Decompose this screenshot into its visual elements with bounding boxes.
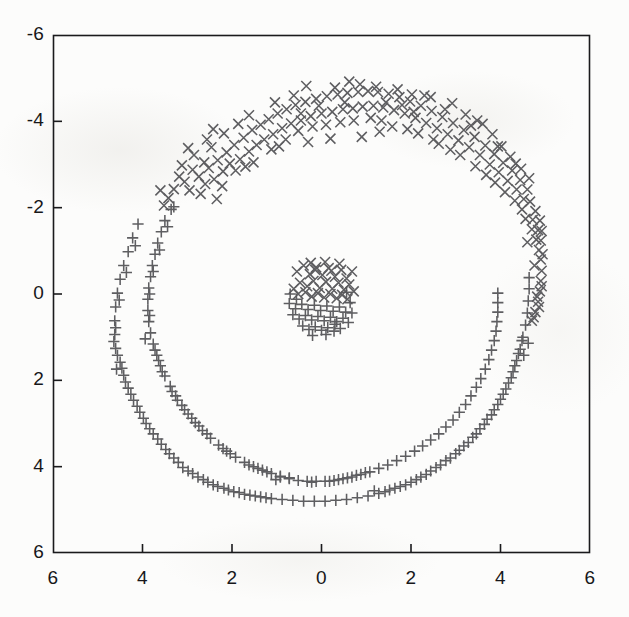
y-axis-tick-label: -2 xyxy=(27,196,44,218)
data-point-plus xyxy=(118,260,129,271)
data-point-cross xyxy=(384,89,394,99)
data-point-cross xyxy=(301,81,311,91)
data-point-plus xyxy=(454,407,465,418)
data-point-cross xyxy=(289,90,299,100)
data-point-cross xyxy=(204,163,214,173)
data-point-cross xyxy=(247,125,257,135)
data-point-plus xyxy=(507,366,518,377)
data-point-plus xyxy=(152,237,163,248)
data-point-plus xyxy=(112,288,123,299)
data-point-plus xyxy=(144,288,155,299)
data-point-cross xyxy=(183,143,193,153)
data-point-plus xyxy=(298,496,309,507)
data-point-plus xyxy=(440,421,451,432)
data-point-cross xyxy=(522,237,532,247)
data-point-cross xyxy=(461,109,471,119)
data-point-cross xyxy=(358,102,368,112)
data-point-cross xyxy=(421,118,431,128)
data-point-cross xyxy=(515,175,525,185)
data-point-cross xyxy=(306,111,316,121)
x-axis-tick-label: 6 xyxy=(570,567,610,589)
data-point-plus xyxy=(389,483,400,494)
data-point-cross xyxy=(505,152,515,162)
data-point-cross xyxy=(445,145,455,155)
y-axis-tick-label: 2 xyxy=(33,368,44,390)
data-point-cross xyxy=(184,185,194,195)
data-point-cross xyxy=(303,137,313,147)
data-point-plus xyxy=(118,370,129,381)
data-point-cross xyxy=(199,157,209,167)
data-point-cross xyxy=(524,173,534,183)
data-point-cross xyxy=(348,103,358,113)
data-point-cross xyxy=(342,88,352,98)
data-point-cross xyxy=(174,172,184,182)
data-point-plus xyxy=(143,316,154,327)
data-point-cross xyxy=(321,120,331,130)
data-point-plus xyxy=(143,282,154,293)
data-point-cross xyxy=(448,118,458,128)
x-axis-tick-label: 2 xyxy=(212,567,252,589)
data-point-cross xyxy=(340,97,350,107)
data-point-plus xyxy=(239,489,250,500)
data-point-cross xyxy=(537,266,547,276)
data-point-plus xyxy=(121,267,132,278)
data-point-cross xyxy=(282,104,292,114)
data-point-cross xyxy=(256,120,266,130)
data-point-cross xyxy=(375,127,385,137)
data-point-plus xyxy=(524,272,535,283)
scatter-plot-figure: 6420-2-4-66420246 xyxy=(0,0,629,617)
series-class-x xyxy=(155,77,547,326)
data-point-plus xyxy=(266,493,277,504)
data-point-cross xyxy=(402,124,412,134)
data-point-cross xyxy=(155,185,165,195)
data-point-plus xyxy=(395,481,406,492)
data-point-plus xyxy=(362,490,373,501)
data-point-cross xyxy=(317,109,327,119)
data-point-plus xyxy=(495,394,506,405)
data-point-cross xyxy=(530,206,540,216)
data-point-plus xyxy=(498,389,509,400)
data-point-cross xyxy=(490,178,500,188)
x-axis-tick-label: 4 xyxy=(481,567,521,589)
data-point-cross xyxy=(273,109,283,119)
data-point-plus xyxy=(142,294,153,305)
data-point-cross xyxy=(443,129,453,139)
data-point-cross xyxy=(470,132,480,142)
data-point-cross xyxy=(177,160,187,170)
data-point-cross xyxy=(244,110,254,120)
data-point-plus xyxy=(277,494,288,505)
data-point-plus xyxy=(162,221,173,232)
data-point-plus xyxy=(151,350,162,361)
data-point-cross xyxy=(219,128,229,138)
data-point-plus xyxy=(509,360,520,371)
data-point-plus xyxy=(409,446,420,457)
data-point-plus xyxy=(523,295,534,306)
data-point-plus xyxy=(153,355,164,366)
series-class-plus xyxy=(108,201,534,507)
data-point-cross xyxy=(231,166,241,176)
x-axis-tick-label: 6 xyxy=(33,567,73,589)
data-point-cross xyxy=(453,135,463,145)
data-point-plus xyxy=(250,490,261,501)
data-point-cross xyxy=(428,134,438,144)
data-point-plus xyxy=(352,492,363,503)
data-point-cross xyxy=(487,129,497,139)
data-point-cross xyxy=(480,141,490,151)
plot-canvas xyxy=(0,0,629,617)
data-point-cross xyxy=(208,124,218,134)
y-axis-tick-label: 0 xyxy=(33,282,44,304)
data-point-cross xyxy=(217,181,227,191)
data-point-cross xyxy=(349,115,359,125)
data-point-cross xyxy=(478,119,488,129)
data-point-cross xyxy=(500,187,510,197)
data-point-cross xyxy=(393,84,403,94)
data-point-plus xyxy=(293,475,304,486)
data-point-plus xyxy=(145,327,156,338)
data-point-plus xyxy=(130,240,141,251)
data-point-plus xyxy=(112,350,123,361)
data-point-cross xyxy=(344,77,354,87)
data-point-cross xyxy=(527,316,537,326)
data-point-plus xyxy=(228,486,239,497)
data-point-cross xyxy=(427,106,437,116)
data-point-cross xyxy=(472,115,482,125)
